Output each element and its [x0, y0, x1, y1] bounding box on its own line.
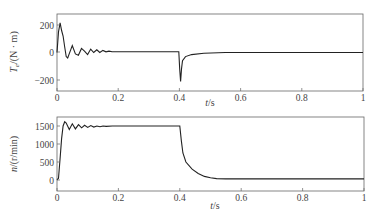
y-tick-label: 1500 [35, 122, 54, 132]
torque-curve [57, 23, 363, 82]
x-tick-label: 0.6 [235, 193, 247, 203]
speed-plot-frame [57, 117, 364, 191]
x-tick-label: 1 [362, 193, 367, 203]
speed-y-label: n/(r/min) [8, 136, 20, 172]
y-tick-label: −200 [34, 76, 54, 86]
x-tick-label: 1 [361, 93, 366, 103]
x-tick-label: 0 [55, 93, 60, 103]
speed-x-label: t/s [210, 200, 220, 211]
x-tick-label: 0.8 [297, 193, 309, 203]
y-tick-label: 200 [40, 21, 55, 31]
figure: 00.20.40.60.81 2000−200 t/s Te/(N · m) 0… [0, 0, 384, 224]
torque-y-ticks: 2000−200 [34, 21, 60, 86]
x-tick-label: 0.4 [173, 93, 185, 103]
y-tick-label: 500 [40, 158, 55, 168]
torque-plot: 00.20.40.60.81 2000−200 t/s Te/(N · m) [8, 14, 366, 108]
x-tick-label: 0.6 [235, 93, 247, 103]
x-tick-label: 0.2 [112, 93, 124, 103]
torque-y-label: Te/(N · m) [8, 31, 21, 72]
torque-x-label: t/s [205, 97, 215, 108]
y-tick-label: 0 [49, 48, 54, 58]
x-tick-label: 0 [55, 193, 60, 203]
x-tick-label: 0.8 [296, 93, 308, 103]
y-tick-label: 1000 [35, 140, 54, 150]
y-tick-label: 0 [49, 176, 54, 186]
speed-y-ticks: 150010005000 [35, 122, 60, 186]
x-tick-label: 0.4 [174, 193, 186, 203]
speed-plot: 00.20.40.60.81 150010005000 t/s n/(r/min… [8, 117, 367, 211]
x-tick-label: 0.2 [112, 193, 124, 203]
speed-curve [57, 122, 364, 180]
